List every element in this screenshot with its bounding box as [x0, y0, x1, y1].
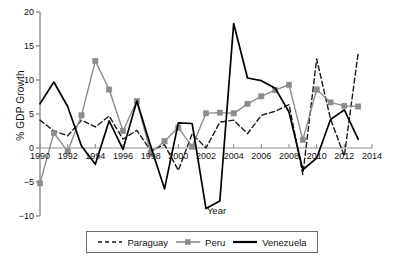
plot-area: 20151050−5−10 19901992199419961998200020…	[0, 0, 403, 225]
legend-label: Venezuela	[262, 237, 306, 248]
gray-square-marker-line-swatch	[175, 236, 201, 248]
legend-item-paraguay[interactable]: Paraguay	[97, 236, 168, 248]
dashed-line-swatch	[97, 236, 123, 248]
x-axis-title: Year	[0, 205, 403, 216]
legend-item-peru[interactable]: Peru	[175, 236, 225, 248]
legend-item-venezuela[interactable]: Venezuela	[232, 236, 306, 248]
chart-legend: ParaguayPeruVenezuela	[86, 231, 318, 253]
gdp-growth-line-chart: % GDP Growth 20151050−5−10 1990199219941…	[0, 0, 403, 262]
x-axis-title-text: Year	[177, 205, 226, 216]
legend-label: Peru	[205, 237, 225, 248]
legend-label: Paraguay	[127, 237, 168, 248]
x-tick-labels: 1990199219941996199820002002200420062008…	[0, 0, 403, 225]
x-tick-label: 2014	[355, 152, 389, 161]
solid-line-swatch	[232, 236, 258, 248]
